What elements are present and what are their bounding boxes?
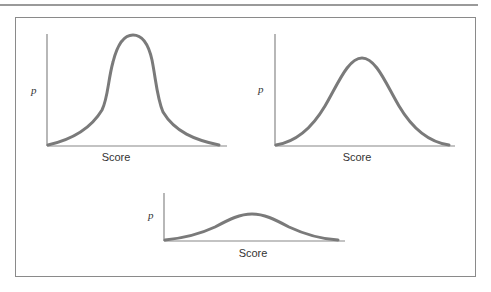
y-axis-label: p [257, 83, 264, 95]
x-axis-label: Score [102, 151, 131, 163]
distribution-curve [48, 35, 219, 145]
x-axis-label: Score [343, 151, 372, 163]
figure-canvas: p Score p Score p Score [0, 0, 491, 292]
y-axis-label: p [30, 84, 37, 96]
distribution-curve [165, 214, 338, 240]
chart-medium: p Score [257, 34, 455, 163]
y-axis-label: p [147, 209, 154, 221]
x-axis-label: Score [239, 247, 268, 259]
distribution-curve [276, 58, 449, 145]
chart-flat: p Score [147, 193, 345, 259]
chart-narrow: p Score [30, 34, 227, 163]
